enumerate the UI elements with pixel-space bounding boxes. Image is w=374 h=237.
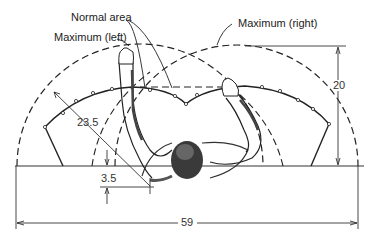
dim-label-3-5: 3.5 <box>101 173 116 184</box>
dim-label-20: 20 <box>333 80 345 91</box>
maximum-right-leader <box>217 24 232 45</box>
worker-left-arm <box>119 62 172 178</box>
dim-label-23-5: 23.5 <box>77 117 98 128</box>
normal-area-left-end <box>45 127 63 166</box>
normal-area-right-end <box>311 124 329 166</box>
worker-right-hand <box>222 78 239 96</box>
label-maximum-left: Maximum (left) <box>54 32 127 43</box>
label-maximum-right: Maximum (right) <box>238 18 317 29</box>
worker-left-arm-shade <box>132 70 142 140</box>
dim-label-59: 59 <box>181 217 193 228</box>
normal-area-left-arc <box>45 87 186 127</box>
maximum-right-arc <box>115 45 358 166</box>
label-normal-area: Normal area <box>71 12 132 23</box>
normal-area-leader-2 <box>128 20 172 88</box>
worker-left-shoulder-shade <box>150 176 172 181</box>
worker-head-highlight <box>176 144 194 160</box>
normal-area-right-arc <box>186 86 329 124</box>
worker-right-arm <box>210 94 261 164</box>
worker-left-hand <box>119 48 134 64</box>
